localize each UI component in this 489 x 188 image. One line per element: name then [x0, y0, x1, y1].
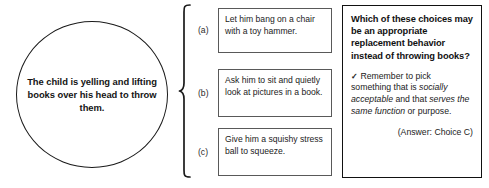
- panel-answer: (Answer: Choice C): [351, 127, 473, 139]
- choice-letter-b: (b): [198, 88, 218, 99]
- choice-box-c[interactable]: Give him a squishy stress ball to squeez…: [218, 128, 332, 176]
- choice-row[interactable]: (c) Give him a squishy stress ball to sq…: [198, 128, 332, 176]
- curly-brace-icon: [178, 4, 194, 178]
- checkmark-icon: ✓: [351, 71, 358, 81]
- choice-row[interactable]: (a) Let him bang on a chair with a toy h…: [198, 8, 332, 53]
- choice-box-b[interactable]: Ask him to sit and quietly look at pictu…: [218, 69, 332, 117]
- figure-canvas: The child is yelling and lifting books o…: [0, 0, 489, 188]
- choice-box-a[interactable]: Let him bang on a chair with a toy hamme…: [218, 8, 332, 53]
- choice-letter-c: (c): [198, 147, 218, 158]
- panel-tip: ✓ Remember to pick something that is soc…: [351, 71, 473, 117]
- choice-row[interactable]: (b) Ask him to sit and quietly look at p…: [198, 69, 332, 117]
- question-panel: Which of these choices may be an appropr…: [342, 5, 482, 178]
- choice-letter-a: (a): [198, 25, 218, 36]
- scenario-text: The child is yelling and lifting books o…: [26, 75, 158, 115]
- scenario-ellipse: The child is yelling and lifting books o…: [16, 21, 168, 168]
- panel-question: Which of these choices may be an appropr…: [351, 13, 473, 62]
- panel-tip-part2: and that: [393, 94, 429, 104]
- panel-tip-part3: or purpose.: [405, 106, 451, 116]
